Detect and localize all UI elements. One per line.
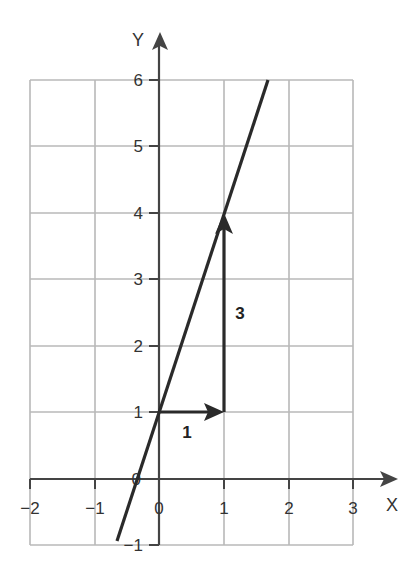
y-tick-label: 4 xyxy=(134,204,143,223)
x-tick-label: 0 xyxy=(154,499,163,518)
x-tick-label: −2 xyxy=(20,499,39,518)
y-tick-label: 1 xyxy=(134,403,143,422)
y-tick-label: 5 xyxy=(134,137,143,156)
y-tick-label: 6 xyxy=(134,71,143,90)
x-axis-label: X xyxy=(386,495,398,515)
rise-label: 3 xyxy=(235,304,244,323)
y-axis-label: Y xyxy=(132,30,144,50)
y-ticks xyxy=(149,80,159,545)
x-tick-label: −1 xyxy=(85,499,104,518)
run-label: 1 xyxy=(182,423,191,442)
y-tick-label: 2 xyxy=(134,337,143,356)
x-tick-label: 1 xyxy=(219,499,228,518)
chart: −2 −1 0 1 2 3 −1 0 1 2 3 4 5 6 X Y 1 3 xyxy=(0,0,420,567)
x-ticks xyxy=(30,479,353,489)
x-tick-label: 2 xyxy=(284,499,293,518)
y-tick-label: −1 xyxy=(124,536,143,555)
x-tick-label: 3 xyxy=(348,499,357,518)
y-tick-label: 3 xyxy=(134,270,143,289)
